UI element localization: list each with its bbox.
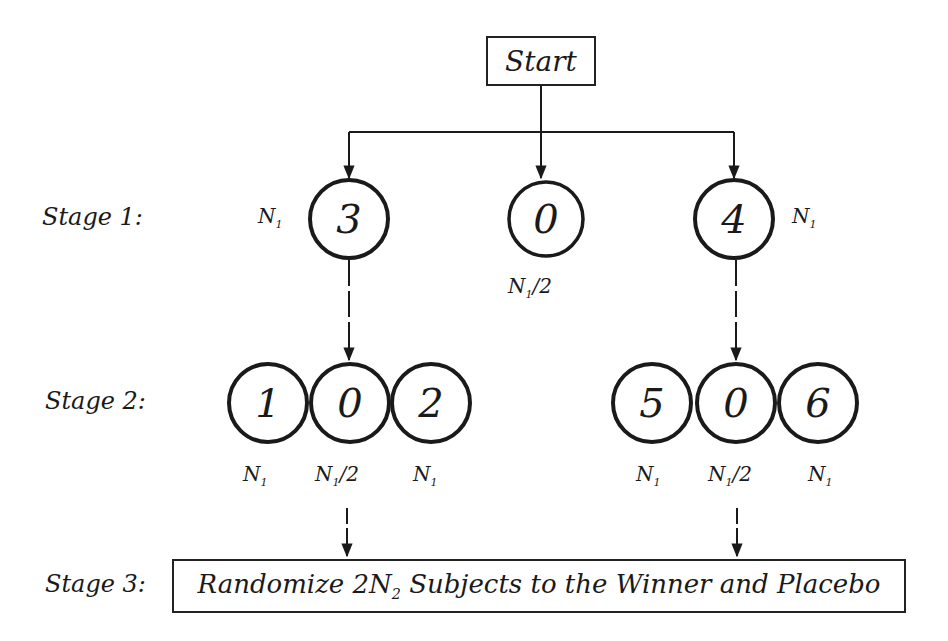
stage-1-label: Stage 1: — [42, 203, 143, 231]
node-6-size: N1 — [808, 462, 833, 489]
node-6-label: 6 — [778, 363, 858, 443]
node-4-size: N1 — [792, 204, 817, 231]
stage-3-label: Stage 3: — [45, 570, 146, 598]
node-0-right-size: N1/2 — [708, 462, 752, 489]
node-3-label: 3 — [309, 179, 389, 259]
node-3-size: N1 — [258, 204, 283, 231]
node-2-label: 2 — [391, 363, 471, 443]
node-4-label: 4 — [694, 179, 774, 259]
node-5-size: N1 — [636, 462, 661, 489]
node-1-label: 1 — [228, 363, 308, 443]
node-0-label: 0 — [506, 179, 586, 259]
node-1-size: N1 — [243, 462, 268, 489]
stage-2-label: Stage 2: — [45, 387, 146, 415]
node-5-label: 5 — [612, 363, 692, 443]
node-0-left-size: N1/2 — [315, 462, 359, 489]
node-0-right-label: 0 — [696, 363, 776, 443]
node-0-size: N1/2 — [508, 274, 552, 301]
randomize-text: Randomize 2N2 Subjects to the Winner and… — [197, 569, 880, 602]
node-2-size: N1 — [413, 462, 438, 489]
start-box: Start — [486, 36, 596, 86]
diagram-canvas — [0, 0, 948, 641]
start-label: Start — [505, 45, 577, 78]
node-0-left-label: 0 — [310, 363, 390, 443]
stage-3-randomize-box: Randomize 2N2 Subjects to the Winner and… — [172, 559, 906, 613]
